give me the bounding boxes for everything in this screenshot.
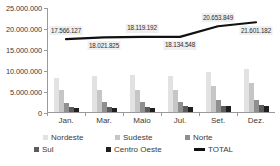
- legend-label: TOTAL: [208, 145, 233, 154]
- square-swatch-icon: [34, 147, 39, 152]
- legend-item-norte[interactable]: Norte: [185, 133, 237, 142]
- legend-item-total[interactable]: TOTAL: [194, 145, 246, 154]
- y-axis-tick-label: 25.000.000: [6, 4, 42, 13]
- legend-item-sudeste[interactable]: Sudeste: [115, 133, 185, 142]
- line-swatch-icon: [194, 148, 205, 151]
- legend-row-2: SulCentro OesteTOTAL: [34, 145, 246, 154]
- bar-group: [168, 76, 193, 112]
- data-label-total: 20.653.849: [201, 13, 234, 22]
- bar-group: [92, 76, 117, 112]
- legend-label: Sudeste: [123, 133, 152, 142]
- y-axis-tick: [44, 71, 47, 72]
- legend-label: Sul: [42, 145, 54, 154]
- bar-centro-oeste: [112, 108, 117, 112]
- y-axis-tick-label: 5.000.000: [10, 88, 42, 97]
- y-axis-tick-label: 15.000.000: [6, 46, 42, 55]
- legend-label: Centro Oeste: [114, 145, 162, 154]
- bar-centro-oeste: [74, 108, 79, 112]
- data-label-total: 18.119.192: [126, 24, 159, 33]
- bar-group: [54, 78, 79, 112]
- total-line-svg: [47, 8, 275, 113]
- x-axis-labels: Jan.Mar.MaioJul.Set.Dez.: [47, 116, 275, 128]
- x-axis-tick-label: Mar.: [96, 116, 112, 125]
- total-line-path: [66, 22, 256, 39]
- legend-item-nordeste[interactable]: Nordeste: [43, 133, 115, 142]
- data-label-total: 17.566.127: [49, 26, 82, 35]
- square-swatch-icon: [185, 135, 190, 140]
- x-axis-tick-label: Maio: [133, 116, 150, 125]
- bar-centro-oeste: [264, 106, 269, 112]
- y-axis-tick: [44, 8, 47, 9]
- x-axis-tick-label: Jan.: [58, 116, 73, 125]
- legend-label: Nordeste: [51, 133, 83, 142]
- y-axis-tick: [44, 29, 47, 30]
- bar-centro-oeste: [226, 106, 231, 112]
- chart-legend: NordesteSudesteNorte SulCentro OesteTOTA…: [0, 133, 280, 154]
- y-axis-tick-label: 0: [38, 109, 42, 118]
- bar-centro-oeste: [150, 108, 155, 112]
- x-axis-tick-label: Dez.: [248, 116, 264, 125]
- legend-label: Norte: [193, 133, 213, 142]
- y-axis-tick: [44, 50, 47, 51]
- y-axis-tick-label: 10.000.000: [6, 67, 42, 76]
- data-label-total: 21.601.182: [239, 26, 272, 35]
- x-axis-tick-label: Jul.: [174, 116, 186, 125]
- data-label-total: 18.021.825: [87, 41, 120, 50]
- chart-container: 05.000.00010.000.00015.000.00020.000.000…: [0, 0, 280, 166]
- plot-area: [47, 8, 275, 113]
- legend-row-1: NordesteSudesteNorte: [43, 133, 237, 142]
- bar-centro-oeste: [188, 107, 193, 112]
- square-swatch-icon: [106, 147, 111, 152]
- data-label-total: 18.134.548: [163, 41, 196, 50]
- x-axis-tick-label: Set.: [211, 116, 225, 125]
- square-swatch-icon: [115, 135, 120, 140]
- y-axis-tick-label: 20.000.000: [6, 25, 42, 34]
- y-axis-labels: 05.000.00010.000.00015.000.00020.000.000…: [0, 8, 45, 113]
- bar-group: [130, 75, 155, 112]
- legend-item-sul[interactable]: Sul: [34, 145, 106, 154]
- y-axis-tick: [44, 92, 47, 93]
- legend-item-centro-oeste[interactable]: Centro Oeste: [106, 145, 194, 154]
- square-swatch-icon: [43, 135, 48, 140]
- bar-group: [206, 72, 231, 112]
- bar-group: [244, 69, 269, 112]
